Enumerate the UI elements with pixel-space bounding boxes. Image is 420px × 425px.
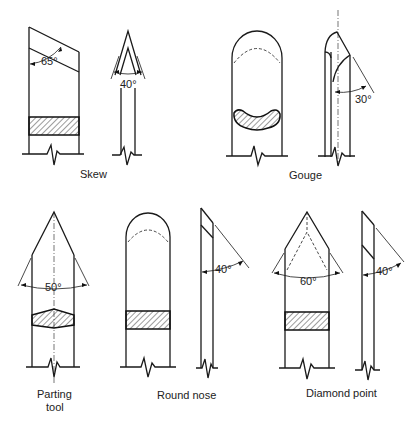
round-nose-side-angle-label: 40° xyxy=(215,263,232,275)
skew-side-angle-label: 40° xyxy=(120,78,137,90)
parting-tool-front-view xyxy=(18,212,89,385)
diamond-side-angle-label: 40° xyxy=(376,265,393,277)
round-nose-label: Round nose xyxy=(157,389,216,401)
round-nose-side-view xyxy=(196,208,249,378)
gouge-label: Gouge xyxy=(289,169,322,181)
diamond-point-front-view xyxy=(272,212,343,379)
gouge-side-angle-label: 30° xyxy=(355,93,372,105)
skew-tool-side-view xyxy=(111,31,145,165)
parting-label-line1: Parting xyxy=(37,388,72,400)
skew-tool-front-view xyxy=(22,27,84,165)
gouge-tool-side-view xyxy=(318,10,374,166)
diamond-point-label: Diamond point xyxy=(306,387,377,399)
skew-front-angle-label: 65° xyxy=(41,55,58,67)
skew-label: Skew xyxy=(80,168,107,180)
lathe-tools-diagram: 65° 40° Skew xyxy=(0,0,420,425)
diamond-point-side-view xyxy=(355,211,404,380)
parting-label-line2: tool xyxy=(46,401,64,413)
parting-angle-label: 50° xyxy=(45,281,62,293)
diamond-front-angle-label: 60° xyxy=(300,275,317,287)
gouge-tool-front-view xyxy=(226,31,288,165)
round-nose-front-view xyxy=(120,213,176,377)
